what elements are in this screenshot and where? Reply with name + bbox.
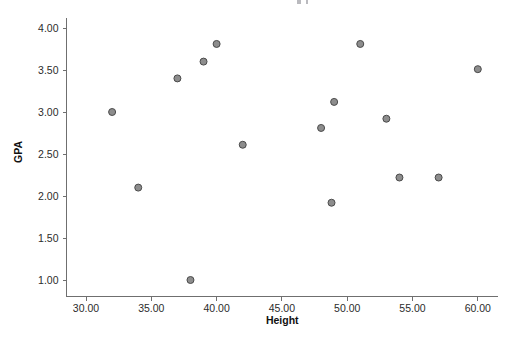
x-tick-label: 30.00 — [73, 302, 99, 314]
x-tick-label: 50.00 — [334, 302, 360, 314]
data-point — [200, 58, 207, 65]
data-point — [328, 199, 335, 206]
x-tick-label: 60.00 — [465, 302, 491, 314]
data-point — [383, 115, 390, 122]
y-tick-label: 4.00 — [38, 22, 59, 34]
data-point — [187, 277, 194, 284]
data-points-layer — [109, 40, 482, 283]
data-point — [435, 174, 442, 181]
x-tick-label: 55.00 — [399, 302, 425, 314]
data-point — [318, 124, 325, 131]
data-point — [331, 98, 338, 105]
y-tick-label: 2.50 — [38, 148, 59, 160]
y-tick-label: 2.00 — [38, 190, 59, 202]
data-point — [109, 109, 116, 116]
data-point — [135, 184, 142, 191]
data-point — [174, 75, 181, 82]
data-point — [357, 40, 364, 47]
data-point — [239, 141, 246, 148]
y-tick-label: 1.50 — [38, 232, 59, 244]
data-point — [396, 174, 403, 181]
y-tick-label: 1.00 — [38, 274, 59, 286]
data-point — [474, 66, 481, 73]
scatter-chart: 1.001.502.002.503.003.504.00 30.0035.004… — [0, 0, 516, 342]
y-axis: 1.001.502.002.503.003.504.00 — [38, 18, 66, 297]
y-tick-label: 3.50 — [38, 64, 59, 76]
plot-canvas: 1.001.502.002.503.003.504.00 30.0035.004… — [0, 0, 516, 342]
y-axis-title: GPA — [12, 141, 24, 163]
x-tick-label: 45.00 — [269, 302, 295, 314]
x-tick-label: 35.00 — [138, 302, 164, 314]
x-tick-label: 40.00 — [203, 302, 229, 314]
y-tick-label: 3.00 — [38, 106, 59, 118]
data-point — [213, 40, 220, 47]
x-axis: 30.0035.0040.0045.0050.0055.0060.00 — [67, 297, 499, 315]
x-axis-title: Height — [266, 314, 299, 326]
